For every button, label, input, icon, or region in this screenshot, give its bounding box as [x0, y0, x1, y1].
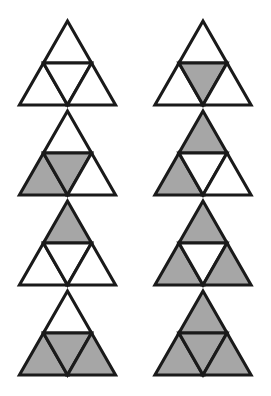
- triangle-figure-5: [0, 198, 135, 288]
- triangle-figure-1: [0, 18, 135, 108]
- triangle-figure-4: [135, 108, 271, 198]
- subtriangle-top: [179, 201, 227, 243]
- subdivided-triangle-icon: [0, 18, 135, 108]
- subtriangle-top: [43, 291, 91, 333]
- subtriangle-top: [179, 111, 227, 153]
- subdivided-triangle-icon: [135, 198, 271, 288]
- subdivided-triangle-icon: [135, 108, 271, 198]
- triangle-grid: [0, 0, 271, 396]
- subdivided-triangle-icon: [0, 198, 135, 288]
- subtriangle-top: [43, 111, 91, 153]
- subdivided-triangle-icon: [135, 18, 271, 108]
- subtriangle-top: [179, 291, 227, 333]
- subtriangle-top: [43, 201, 91, 243]
- figure-sheet: [0, 0, 271, 396]
- triangle-figure-8: [135, 288, 271, 378]
- triangle-figure-2: [135, 18, 271, 108]
- subtriangle-top: [43, 21, 91, 63]
- subdivided-triangle-icon: [0, 288, 135, 378]
- triangle-figure-7: [0, 288, 135, 378]
- triangle-figure-6: [135, 198, 271, 288]
- subtriangle-top: [179, 21, 227, 63]
- subdivided-triangle-icon: [0, 108, 135, 198]
- subdivided-triangle-icon: [135, 288, 271, 378]
- triangle-figure-3: [0, 108, 135, 198]
